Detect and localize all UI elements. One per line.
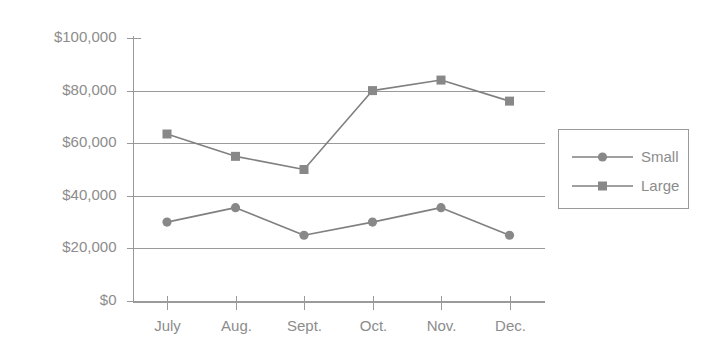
- gridlines: [134, 92, 546, 302]
- line-chart: $0$20,000$40,000$60,000$80,000$100,000 J…: [0, 0, 722, 361]
- y-tick-label: $80,000: [62, 81, 116, 98]
- x-tick-label: Dec.: [495, 317, 526, 334]
- y-tick-label: $60,000: [62, 133, 116, 150]
- data-point-marker: [231, 152, 240, 161]
- y-axis-tick-labels: $0$20,000$40,000$60,000$80,000$100,000: [54, 28, 117, 308]
- y-tick-label: $40,000: [62, 186, 116, 203]
- data-point-marker: [368, 218, 377, 227]
- legend-label: Large: [641, 177, 679, 194]
- data-point-marker: [436, 203, 445, 212]
- x-axis-tick-labels: JulyAug.Sept.Oct.Nov.Dec.: [154, 317, 526, 334]
- series-small: [162, 203, 514, 240]
- y-tick-label: $0: [100, 291, 117, 308]
- data-point-marker: [231, 203, 240, 212]
- data-point-marker: [505, 231, 514, 240]
- chart-legend: SmallLarge: [559, 130, 689, 209]
- data-point-marker: [368, 86, 377, 95]
- y-tick-label: $100,000: [54, 28, 117, 45]
- series-line: [167, 208, 510, 236]
- data-point-marker: [162, 218, 171, 227]
- x-tick-label: July: [154, 317, 181, 334]
- x-tick-label: Oct.: [360, 317, 388, 334]
- x-tick-label: Aug.: [221, 317, 252, 334]
- legend-label: Small: [641, 148, 679, 165]
- legend-marker-square: [598, 182, 607, 191]
- x-tick-label: Nov.: [427, 317, 457, 334]
- data-series: [162, 76, 514, 240]
- series-line: [167, 80, 510, 169]
- data-point-marker: [505, 97, 514, 106]
- data-point-marker: [437, 76, 446, 85]
- chart-canvas: $0$20,000$40,000$60,000$80,000$100,000 J…: [0, 0, 722, 361]
- data-point-marker: [300, 165, 309, 174]
- legend-marker-circle: [598, 152, 607, 161]
- data-point-marker: [163, 129, 172, 138]
- y-tick-label: $20,000: [62, 238, 116, 255]
- series-large: [163, 76, 515, 174]
- data-point-marker: [299, 231, 308, 240]
- legend-border: [559, 130, 689, 209]
- x-tick-label: Sept.: [287, 317, 322, 334]
